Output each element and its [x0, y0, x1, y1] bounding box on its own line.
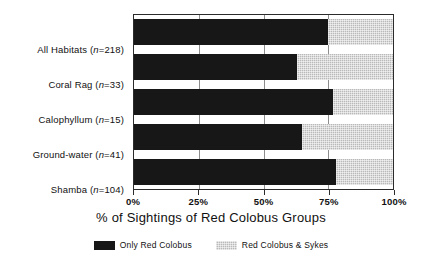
x-tick-0	[133, 190, 134, 195]
y-axis-label-shamba: Shamba (n=104)	[51, 184, 124, 195]
x-tick-label-25: 25%	[188, 196, 208, 207]
bar-segment	[134, 124, 302, 150]
y-label-text: Shamba	[51, 184, 87, 195]
x-axis-title: % of Sightings of Red Colobus Groups	[0, 210, 422, 225]
legend-item-red-colobus-and-sykes: Red Colobus & Sykes	[216, 240, 328, 250]
bar-segment	[297, 54, 393, 80]
legend-label-red-colobus-and-sykes: Red Colobus & Sykes	[242, 240, 328, 250]
bar-segment	[134, 54, 297, 80]
x-tick-label-75: 75%	[319, 196, 339, 207]
x-tick-label-0: 0%	[126, 196, 140, 207]
x-tick-label-50: 50%	[254, 196, 274, 207]
x-tick-label-100: 100%	[381, 196, 406, 207]
y-axis-label-calophyllum: Calophyllum (n=15)	[39, 114, 124, 125]
bar-row	[134, 159, 393, 185]
bar-segment	[336, 159, 393, 185]
y-label-text: Coral Rag	[48, 79, 92, 90]
stacked-bar-chart: All Habitats (n=218) Coral Rag (n=33) Ca…	[0, 0, 422, 269]
x-tick-25	[198, 190, 199, 195]
y-axis-label-coral-rag: Coral Rag (n=33)	[48, 79, 124, 90]
y-axis-label-ground-water: Ground-water (n=41)	[33, 149, 124, 160]
y-label-n-value: =218)	[99, 44, 124, 55]
chart-legend: Only Red Colobus Red Colobus & Sykes	[0, 240, 422, 250]
y-label-n-value: =33)	[104, 79, 124, 90]
legend-swatch-icon-only-red-colobus	[94, 241, 115, 250]
x-tick-50	[264, 190, 265, 195]
legend-item-only-red-colobus: Only Red Colobus	[94, 240, 192, 250]
bar-segment	[134, 89, 333, 115]
x-axis-tick-labels: 0%25%50%75%100%	[133, 196, 394, 210]
y-label-n-value: =15)	[104, 114, 124, 125]
legend-label-only-red-colobus: Only Red Colobus	[120, 240, 192, 250]
bar-segment	[328, 19, 393, 45]
y-label-text: Calophyllum	[39, 114, 93, 125]
bar-row	[134, 89, 393, 115]
y-axis-category-labels: All Habitats (n=218) Coral Rag (n=33) Ca…	[0, 14, 129, 190]
bar-row	[134, 124, 393, 150]
bar-segment	[134, 159, 336, 185]
bar-segment	[333, 89, 393, 115]
bar-row	[134, 54, 393, 80]
y-label-n-value: =41)	[104, 149, 124, 160]
bar-segment	[302, 124, 393, 150]
y-label-text: Ground-water	[33, 149, 93, 160]
y-label-n-value: =104)	[99, 184, 124, 195]
bar-row	[134, 19, 393, 45]
legend-swatch-icon-red-colobus-and-sykes	[216, 241, 237, 250]
x-tick-75	[329, 190, 330, 195]
y-axis-label-all-habitats: All Habitats (n=218)	[37, 44, 124, 55]
bar-segment	[134, 19, 328, 45]
y-label-text: All Habitats	[37, 44, 87, 55]
plot-area	[133, 14, 394, 190]
x-tick-100	[394, 190, 395, 195]
